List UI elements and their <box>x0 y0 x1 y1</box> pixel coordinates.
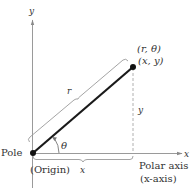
pole-point <box>30 150 36 156</box>
point-marker <box>130 64 136 70</box>
radius-bracket <box>28 59 128 142</box>
rectangular-coordinates-label: (x, y) <box>138 55 164 66</box>
pole-label: Pole <box>1 147 23 158</box>
angle-arrowhead <box>52 137 57 141</box>
y-distance-label: y <box>137 105 144 115</box>
y-axis-label: y <box>28 6 35 16</box>
polar-coordinate-diagram: y x y r θ x Pole (Origin) (r, θ) (x, y) … <box>0 0 194 188</box>
polar-coordinates-label: (r, θ) <box>137 43 161 54</box>
origin-label: (Origin) <box>30 164 70 175</box>
radius-line <box>33 67 133 153</box>
horizontal-bracket <box>33 156 133 162</box>
angle-label: θ <box>61 140 67 151</box>
polar-axis-label: Polar axis <box>139 160 188 171</box>
horizontal-distance-label: x <box>80 165 85 175</box>
polar-axis-sublabel: (x-axis) <box>140 173 177 184</box>
x-axis-label: x <box>184 149 189 159</box>
radius-label: r <box>67 86 72 96</box>
angle-arc <box>55 139 60 154</box>
